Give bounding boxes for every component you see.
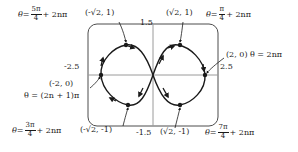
- annotation-theta-7pi4: θ=7π4+ 2nπ: [205, 124, 254, 141]
- equals-sign: =: [23, 10, 30, 19]
- annotation-theta-5pi4: θ=5π4+ 2nπ: [18, 6, 67, 23]
- plus-2npi: + 2nπ: [43, 10, 68, 19]
- annotation-point-top-right: (√2, 1): [166, 9, 193, 17]
- annotation-theta-pi4: θ=π4+ 2nπ: [206, 6, 251, 23]
- annotation-point-top-left: (-√2, 1): [85, 9, 114, 17]
- point-left: [99, 73, 103, 77]
- annotation-theta-3pi4: θ=3π4+ 2nπ: [12, 122, 61, 139]
- annotation-point-bottom-right: (√2, -1): [160, 128, 189, 136]
- point-top-right: [178, 43, 182, 47]
- point-bottom-right: [178, 103, 182, 107]
- tick-label-bottom: -1.5: [136, 128, 151, 137]
- figure-root: 1.5 -1.5 -2.5 2.5 θ=5π4+ 2nπ (-√2, 1) (√…: [0, 0, 298, 152]
- tick-label-right: 2.5: [220, 62, 233, 71]
- equals-sign: =: [17, 126, 24, 135]
- annotation-point-right: (2, 0): [226, 51, 248, 59]
- annotation-theta-2npi: θ = 2nπ: [250, 51, 282, 59]
- plus-2npi: + 2nπ: [230, 128, 255, 137]
- equals-sign: =: [211, 10, 218, 19]
- equals-sign: =: [210, 128, 217, 137]
- plus-2npi: + 2nπ: [37, 126, 62, 135]
- point-top-left: [124, 43, 128, 47]
- tick-label-left: -2.5: [64, 62, 79, 71]
- point-bottom-left: [126, 103, 130, 107]
- fraction-7pi-4: 7π4: [218, 124, 229, 141]
- fraction-pi-4: π4: [219, 6, 226, 23]
- annotation-point-bottom-left: (-√2, -1): [80, 126, 112, 134]
- fraction-5pi-4: 5π4: [31, 6, 42, 23]
- annotation-theta-2n1pi: θ = (2n + 1)π: [24, 92, 79, 100]
- plus-2npi: + 2nπ: [226, 10, 251, 19]
- fraction-3pi-4: 3π4: [25, 122, 36, 139]
- point-right: [203, 73, 207, 77]
- annotation-point-left: (-2, 0): [49, 80, 73, 88]
- tick-label-top: 1.5: [140, 18, 153, 27]
